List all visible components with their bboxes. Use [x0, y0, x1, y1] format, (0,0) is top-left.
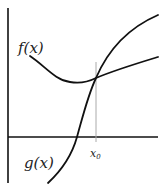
x0-label-sub: 0 — [96, 153, 101, 161]
f-label: f(x) — [17, 39, 44, 57]
x0-label: x0 — [90, 147, 101, 161]
f-curve — [30, 56, 158, 83]
function-graph: f(x) g(x) x0 — [0, 0, 164, 189]
g-curve — [48, 15, 158, 183]
g-label: g(x) — [24, 154, 54, 172]
